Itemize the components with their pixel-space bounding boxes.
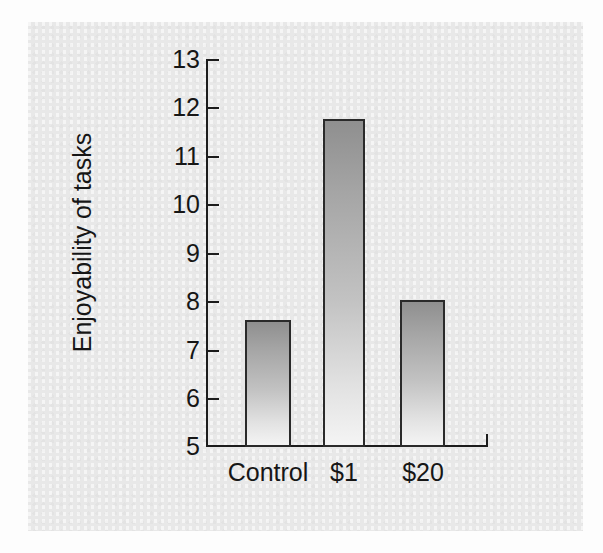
y-tick-label: 13 xyxy=(154,47,200,72)
y-tick-mark xyxy=(208,204,219,206)
y-tick-label: 5 xyxy=(154,434,200,459)
y-tick-label: 9 xyxy=(154,241,200,266)
y-tick-mark xyxy=(208,350,219,352)
y-tick-mark xyxy=(208,59,219,61)
y-tick-label: 12 xyxy=(154,95,200,120)
y-tick-mark xyxy=(208,156,219,158)
bar-20-dollar xyxy=(400,300,445,447)
scanned-page: 13 12 11 10 9 8 7 6 5 Control $1 $20 Enj… xyxy=(0,0,603,553)
x-tick-label-1-dollar: $1 xyxy=(304,460,384,485)
y-tick-mark xyxy=(208,253,219,255)
x-tick-label-20-dollar: $20 xyxy=(380,460,466,485)
y-tick-label: 10 xyxy=(154,192,200,217)
plot-area: 13 12 11 10 9 8 7 6 5 Control $1 $20 Enj… xyxy=(28,22,583,531)
bar-control xyxy=(245,320,291,447)
y-tick-mark xyxy=(208,301,219,303)
x-axis-right-cap-tick xyxy=(486,434,488,447)
figure-panel: 13 12 11 10 9 8 7 6 5 Control $1 $20 Enj… xyxy=(28,22,583,531)
y-tick-mark xyxy=(208,107,219,109)
y-tick-mark xyxy=(208,398,219,400)
y-tick-label: 7 xyxy=(154,338,200,363)
y-tick-label: 8 xyxy=(154,289,200,314)
y-axis-title: Enjoyability of tasks xyxy=(70,113,95,373)
y-tick-label: 6 xyxy=(154,386,200,411)
bar-1-dollar xyxy=(323,119,365,447)
y-tick-label: 11 xyxy=(154,144,200,169)
